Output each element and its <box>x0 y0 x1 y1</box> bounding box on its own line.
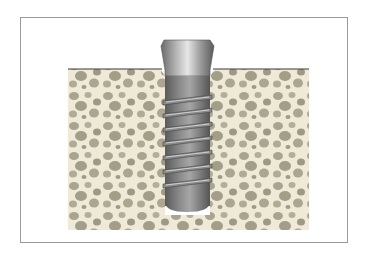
implant-tip <box>165 200 210 212</box>
implant-screw <box>161 40 214 212</box>
implant-illustration <box>0 0 373 260</box>
implant-head <box>161 40 214 76</box>
